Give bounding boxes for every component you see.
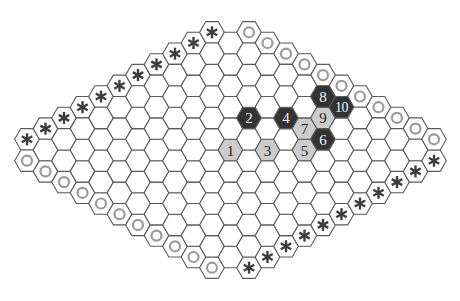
hex-board: 12345678910 bbox=[0, 0, 460, 301]
move-number-1: 1 bbox=[227, 143, 235, 159]
move-number-6: 6 bbox=[319, 132, 327, 148]
move-number-5: 5 bbox=[301, 143, 309, 159]
move-number-7: 7 bbox=[301, 121, 309, 137]
move-number-3: 3 bbox=[264, 143, 272, 159]
move-number-2: 2 bbox=[245, 110, 253, 126]
board-cell[interactable] bbox=[403, 139, 428, 160]
move-number-10: 10 bbox=[335, 100, 349, 115]
move-number-4: 4 bbox=[282, 110, 290, 126]
move-number-8: 8 bbox=[319, 89, 327, 105]
move-number-9: 9 bbox=[319, 110, 327, 126]
